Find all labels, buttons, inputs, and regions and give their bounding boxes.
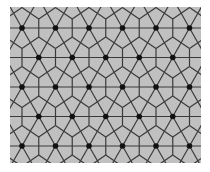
tile-edge xyxy=(0,58,5,73)
tile-edge xyxy=(206,72,210,78)
vertex-dot xyxy=(136,114,142,120)
vertex-dot xyxy=(203,114,209,120)
vertex-dot xyxy=(170,114,176,120)
tile-edge xyxy=(198,161,206,172)
tile-edge xyxy=(0,131,5,137)
tile-edge xyxy=(206,161,210,172)
vertex-dot xyxy=(103,0,109,1)
tile-edge xyxy=(206,155,210,161)
vertex-dot xyxy=(53,25,59,31)
tile-edge xyxy=(0,43,5,58)
tile-edge xyxy=(206,102,210,117)
vertex-dot xyxy=(203,55,209,61)
tile-edge xyxy=(206,37,210,43)
vertex-dot xyxy=(153,25,159,31)
tile-edge xyxy=(0,0,5,13)
vertex-dot xyxy=(153,143,159,149)
vertex-dot xyxy=(153,84,159,90)
vertex-dot xyxy=(136,0,142,1)
vertex-dot xyxy=(2,55,8,61)
vertex-dot xyxy=(53,84,59,90)
tile-edge xyxy=(206,131,210,137)
vertex-dot xyxy=(187,143,193,149)
tile-edge xyxy=(0,13,5,19)
vertex-dot xyxy=(2,114,8,120)
vertex-dot xyxy=(19,25,25,31)
vertex-dot xyxy=(120,25,126,31)
tile-edge xyxy=(206,13,210,19)
tile-edge xyxy=(0,72,5,78)
vertex-dot xyxy=(170,0,176,1)
vertex-dot xyxy=(103,55,109,61)
vertex-dot xyxy=(2,0,8,1)
vertex-dot xyxy=(69,0,75,1)
vertex-dot xyxy=(69,114,75,120)
tile-edge xyxy=(206,58,210,73)
tile-edge xyxy=(5,161,13,172)
vertex-dot xyxy=(187,84,193,90)
vertex-dot xyxy=(36,0,42,1)
vertex-dot xyxy=(69,55,75,61)
vertex-dot xyxy=(120,84,126,90)
tile-edge xyxy=(0,96,5,102)
vertex-dot xyxy=(86,25,92,31)
vertex-dot xyxy=(53,143,59,149)
tile-edge xyxy=(0,161,5,172)
vertex-dot xyxy=(19,143,25,149)
tile-edge xyxy=(5,0,13,13)
tile-edge xyxy=(0,102,5,117)
vertex-dot xyxy=(203,0,209,1)
tile-edge xyxy=(206,0,210,13)
vertex-dot xyxy=(120,143,126,149)
tile-edge xyxy=(206,43,210,58)
tile-edge xyxy=(198,0,206,13)
vertex-dot xyxy=(19,84,25,90)
tile-edge xyxy=(206,96,210,102)
vertex-dot xyxy=(86,84,92,90)
tile-edge xyxy=(0,37,5,43)
vertex-dot xyxy=(187,25,193,31)
tile-edge xyxy=(0,117,5,132)
vertex-dot xyxy=(36,114,42,120)
cairo-tiling-figure xyxy=(0,0,210,172)
vertex-dot xyxy=(136,55,142,61)
tile-edge xyxy=(206,117,210,132)
tile-edge xyxy=(0,155,5,161)
vertex-dot xyxy=(36,55,42,61)
vertex-dot xyxy=(86,143,92,149)
vertex-dot xyxy=(170,55,176,61)
vertex-dot xyxy=(103,114,109,120)
